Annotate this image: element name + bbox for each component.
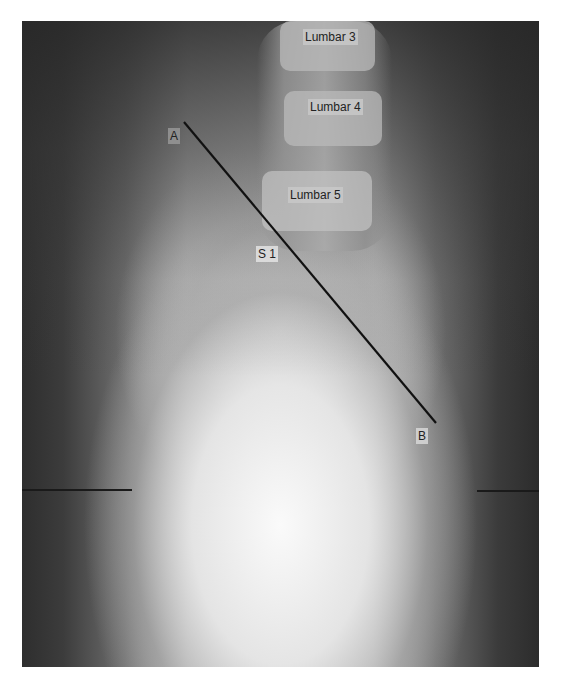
label-point-b: B (416, 428, 428, 444)
measurement-line-overlay (0, 0, 561, 685)
label-point-a: A (168, 128, 180, 144)
label-lumbar-3: Lumbar 3 (303, 29, 358, 45)
label-s1: S 1 (256, 246, 278, 262)
label-lumbar-4: Lumbar 4 (308, 99, 363, 115)
label-lumbar-5: Lumbar 5 (288, 187, 343, 203)
line-a-to-b (184, 122, 436, 423)
